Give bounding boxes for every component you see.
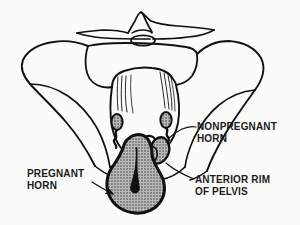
right-ovary bbox=[160, 112, 171, 128]
label-pregnant-horn: PREGNANT HORN bbox=[27, 168, 84, 191]
anatomical-figure: NONPREGNANT HORN PREGNANT HORN ANTERIOR … bbox=[0, 0, 300, 225]
label-nonpregnant-horn: NONPREGNANT HORN bbox=[197, 121, 277, 144]
label-anterior-rim-of-pelvis: ANTERIOR RIM OF PELVIS bbox=[195, 174, 270, 197]
left-ovary bbox=[111, 114, 122, 130]
